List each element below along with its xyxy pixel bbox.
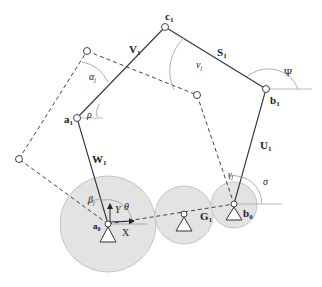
label-c1: c1 (165, 10, 174, 24)
joint-c-displaced (194, 92, 201, 99)
joint-a-displaced (84, 48, 91, 55)
label-a1: a1 (64, 113, 74, 127)
arc-nu (170, 38, 184, 90)
label-U1: U1 (260, 139, 272, 153)
label-psi: Ψ (284, 66, 293, 78)
label-rho: ρ (86, 109, 92, 120)
joint-c1 (162, 24, 169, 31)
joint-b1 (263, 86, 270, 93)
label-W1: W1 (92, 153, 107, 167)
linkage-diagram: a1 c1 b1 a0 b0 W1 V1 S1 U1 G1 αj νj ρ Ψ … (0, 0, 322, 287)
link-S1 (165, 27, 266, 89)
label-sigma: σ (263, 176, 269, 187)
label-gamma: γj (228, 169, 234, 180)
label-V1: V1 (129, 43, 141, 57)
label-S1: S1 (217, 46, 227, 60)
arc-rho (97, 104, 99, 117)
label-theta: θ (124, 201, 129, 212)
label-alpha: αj (89, 71, 96, 83)
joint-a1 (74, 115, 81, 122)
label-x-axis: X (122, 227, 130, 238)
label-nu: νj (196, 59, 202, 71)
joint-a0-displaced (16, 156, 23, 163)
label-b1: b1 (270, 94, 280, 108)
